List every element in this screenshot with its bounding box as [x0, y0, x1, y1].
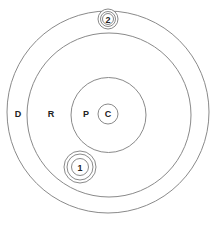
marker-1: 1 [64, 151, 96, 183]
label-c: C [105, 109, 112, 119]
marker-2: 2 [98, 9, 118, 29]
marker-1-label: 1 [77, 163, 82, 173]
concentric-diagram: 2 1 D R P C [0, 0, 216, 226]
marker-2-label: 2 [105, 15, 110, 25]
label-d: D [15, 109, 22, 119]
label-p: P [83, 109, 89, 119]
label-r: R [48, 109, 55, 119]
